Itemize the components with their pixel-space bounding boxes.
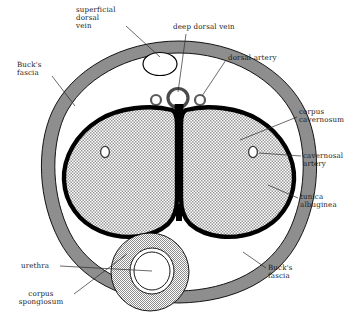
label-dorsal-artery: dorsal artery [228,54,290,62]
label-superficial-dorsal-vein: superficial dorsal vein [76,6,138,31]
cavernosal-artery-right [249,146,258,157]
label-urethra: urethra [21,262,61,270]
label-deep-dorsal-vein: deep dorsal vein [173,23,248,31]
label-corpus-spongiosum: corpus spongiosum [8,290,74,306]
dorsal-artery-right [195,95,205,105]
label-cavernosal-artery: cavernosal artery [303,152,358,168]
diagram-canvas: superficial dorsal vein deep dorsal vein… [0,0,358,330]
label-tunica-albuginea: tunica albuginea [300,193,356,209]
label-bucks-fascia-top: Buck's fascia [17,61,59,77]
cavernosal-artery-left [101,146,110,157]
corpus-spongiosum [111,233,189,311]
label-corpus-cavernosum: corpus cavernosum [299,108,358,124]
label-bucks-fascia-bottom: Buck's fascia [268,264,310,280]
superficial-dorsal-vein [143,53,177,76]
dorsal-artery-left [151,95,161,105]
